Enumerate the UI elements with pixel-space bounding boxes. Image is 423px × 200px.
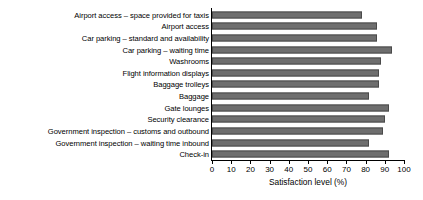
tick-label: 40 bbox=[284, 165, 293, 175]
bar bbox=[212, 46, 392, 53]
tick-label: 10 bbox=[227, 165, 236, 175]
tick-mark bbox=[231, 161, 232, 164]
bar bbox=[212, 151, 389, 158]
x-axis-ticks: 0102030405060708090100 bbox=[0, 161, 423, 165]
category-label: Flight information displays bbox=[123, 68, 209, 77]
category-label: Government inspection – customs and outb… bbox=[48, 126, 209, 135]
bar bbox=[212, 11, 362, 18]
tick-mark bbox=[385, 161, 386, 164]
tick-mark bbox=[212, 161, 213, 164]
category-label: Baggage trolleys bbox=[153, 80, 209, 89]
tick-mark bbox=[327, 161, 328, 164]
bar bbox=[212, 69, 379, 76]
tick-label: 70 bbox=[342, 165, 351, 175]
tick-label: 80 bbox=[361, 165, 370, 175]
category-label: Check-in bbox=[179, 150, 209, 159]
category-label: Gate lounges bbox=[164, 103, 209, 112]
bar bbox=[212, 104, 389, 111]
bar bbox=[212, 35, 377, 42]
tick-mark bbox=[346, 161, 347, 164]
tick-mark bbox=[308, 161, 309, 164]
tick-mark bbox=[404, 161, 405, 164]
tick-label: 30 bbox=[265, 165, 274, 175]
tick-label: 90 bbox=[380, 165, 389, 175]
bar bbox=[212, 23, 377, 30]
tick-label: 50 bbox=[304, 165, 313, 175]
bar bbox=[212, 81, 379, 88]
category-label: Security clearance bbox=[147, 115, 209, 124]
bar bbox=[212, 139, 369, 146]
tick-label: 20 bbox=[246, 165, 255, 175]
x-axis-title: Satisfaction level (%) bbox=[212, 177, 404, 187]
tick-mark bbox=[366, 161, 367, 164]
tick-mark bbox=[289, 161, 290, 164]
bar bbox=[212, 58, 381, 65]
tick-label: 0 bbox=[210, 165, 214, 175]
bar bbox=[212, 116, 385, 123]
tick-mark bbox=[250, 161, 251, 164]
category-label: Airport access bbox=[162, 22, 209, 31]
category-label: Car parking – standard and availability bbox=[82, 34, 209, 43]
category-label: Airport access – space provided for taxi… bbox=[74, 10, 209, 19]
tick-label: 60 bbox=[323, 165, 332, 175]
bar bbox=[212, 127, 383, 134]
tick-mark bbox=[270, 161, 271, 164]
category-axis-line bbox=[211, 8, 212, 160]
category-label: Washrooms bbox=[169, 57, 209, 66]
bar bbox=[212, 93, 369, 100]
category-label: Car parking – waiting time bbox=[123, 45, 210, 54]
satisfaction-bar-chart: Airport access – space provided for taxi… bbox=[0, 0, 423, 200]
tick-label: 100 bbox=[397, 165, 410, 175]
category-label: Baggage bbox=[179, 92, 209, 101]
category-label: Government inspection – waiting time inb… bbox=[55, 138, 209, 147]
